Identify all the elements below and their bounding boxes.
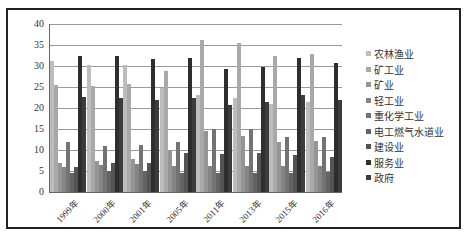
legend-item: 建设业 <box>366 139 444 155</box>
x-axis <box>49 192 342 193</box>
legend-label: 矿工业 <box>374 62 404 77</box>
legend-label: 矿业 <box>374 77 394 92</box>
legend-item: 矿工业 <box>366 62 444 78</box>
legend-label: 建设业 <box>374 139 404 154</box>
bar <box>82 97 86 192</box>
y-tick-label: 40 <box>22 18 44 29</box>
legend-swatch-icon <box>366 82 371 87</box>
legend-label: 轻工业 <box>374 93 404 108</box>
legend-swatch-icon <box>366 144 371 149</box>
y-tick-label: 25 <box>22 81 44 92</box>
legend-item: 政府 <box>366 170 444 186</box>
y-tick-label: 10 <box>22 144 44 155</box>
legend-swatch-icon <box>366 98 371 103</box>
legend-swatch-icon <box>366 160 371 165</box>
bar <box>301 95 305 192</box>
legend-swatch-icon <box>366 129 371 134</box>
legend: 农林渔业矿工业矿业轻工业重化学工业电工燃气水道业建设业服务业政府 <box>366 46 444 186</box>
legend-swatch-icon <box>366 67 371 72</box>
legend-item: 矿业 <box>366 77 444 93</box>
gridline <box>50 45 342 46</box>
legend-item: 电工燃气水道业 <box>366 124 444 140</box>
y-tick-label: 30 <box>22 60 44 71</box>
legend-item: 轻工业 <box>366 93 444 109</box>
legend-item: 服务业 <box>366 155 444 171</box>
bar <box>265 102 269 192</box>
legend-swatch-icon <box>366 175 371 180</box>
legend-label: 政府 <box>374 170 394 185</box>
legend-label: 电工燃气水道业 <box>374 124 444 139</box>
legend-label: 服务业 <box>374 155 404 170</box>
bar <box>338 100 342 192</box>
legend-item: 农林渔业 <box>366 46 444 62</box>
bar <box>155 100 159 192</box>
gridline <box>50 24 342 25</box>
bar <box>119 98 123 193</box>
bar <box>192 98 196 192</box>
legend-label: 农林渔业 <box>374 46 414 61</box>
y-tick-label: 0 <box>22 186 44 197</box>
y-tick-label: 35 <box>22 39 44 50</box>
legend-item: 重化学工业 <box>366 108 444 124</box>
y-tick-label: 20 <box>22 102 44 113</box>
legend-label: 重化学工业 <box>374 108 424 123</box>
legend-swatch-icon <box>366 51 371 56</box>
legend-swatch-icon <box>366 113 371 118</box>
bar <box>228 105 232 192</box>
y-tick-label: 5 <box>22 165 44 176</box>
y-tick-label: 15 <box>22 123 44 134</box>
